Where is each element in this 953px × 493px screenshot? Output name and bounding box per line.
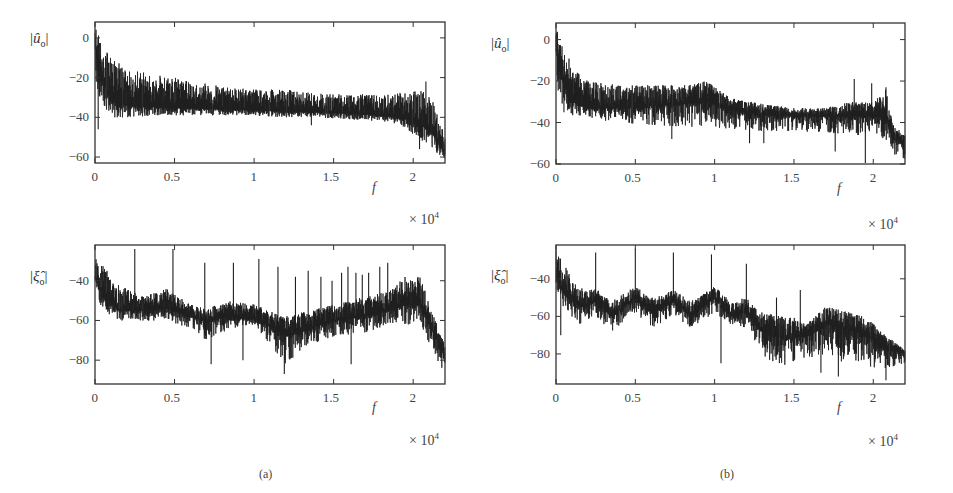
- y-tick-label: −60: [530, 308, 550, 324]
- y-tick-label: −20: [530, 73, 550, 89]
- x-tick-label: 1.5: [323, 169, 339, 185]
- y-tick-label: −80: [530, 346, 550, 362]
- y-tick-label: −40: [530, 115, 550, 131]
- x-tick-label: 0: [91, 390, 98, 406]
- x-tick-label: 0.5: [164, 390, 180, 406]
- y-tick-label: −60: [69, 312, 89, 328]
- y-tick-label: −40: [530, 271, 550, 287]
- panel-b-bottom: |ξ̂o| f × 104 (b): [0, 0, 953, 493]
- x-tick-label: 0: [552, 390, 559, 406]
- y-tick-label: 0: [83, 30, 90, 46]
- x-tick-label: 1: [711, 390, 718, 406]
- x-tick-label: 1: [711, 170, 718, 186]
- x-tick-label: 2: [870, 170, 877, 186]
- x-tick-label: 2: [870, 390, 877, 406]
- x-tick-label: 1.5: [323, 390, 339, 406]
- x-tick-label: 0: [91, 169, 98, 185]
- x-axis-label: f: [837, 400, 841, 416]
- x-axis-multiplier: × 104: [868, 432, 898, 450]
- x-tick-label: 1: [250, 169, 257, 185]
- y-tick-label: −20: [69, 70, 89, 86]
- spectrum-line: [556, 251, 905, 368]
- panel-caption: (b): [720, 467, 734, 482]
- y-tick-label: −60: [530, 156, 550, 172]
- x-tick-label: 0.5: [625, 390, 641, 406]
- y-tick-label: −80: [69, 352, 89, 368]
- x-tick-label: 0.5: [625, 170, 641, 186]
- y-tick-label: −60: [69, 149, 89, 165]
- x-tick-label: 0.5: [164, 169, 180, 185]
- x-tick-label: 2: [410, 169, 417, 185]
- y-tick-label: 0: [544, 32, 551, 48]
- plot-area: [0, 0, 953, 493]
- y-tick-label: −40: [69, 273, 89, 289]
- x-tick-label: 2: [410, 390, 417, 406]
- y-tick-label: −40: [69, 109, 89, 125]
- x-tick-label: 0: [552, 170, 559, 186]
- x-tick-label: 1: [250, 390, 257, 406]
- x-tick-label: 1.5: [783, 170, 799, 186]
- x-tick-label: 1.5: [783, 390, 799, 406]
